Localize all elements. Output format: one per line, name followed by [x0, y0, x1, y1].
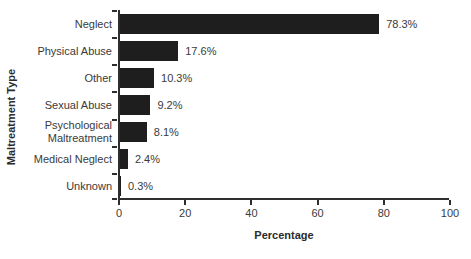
bar	[120, 41, 178, 61]
y-axis-tick	[112, 64, 117, 66]
x-axis-tick-label: 20	[179, 207, 191, 219]
x-axis-tick	[317, 200, 319, 205]
bar	[120, 95, 150, 115]
value-label: 10.3%	[161, 72, 192, 84]
x-axis-tick-label: 0	[116, 207, 122, 219]
y-axis-tick	[112, 198, 117, 200]
value-label: 78.3%	[386, 18, 417, 30]
x-axis-tick-label: 60	[311, 207, 323, 219]
y-axis-tick	[112, 37, 117, 39]
x-axis-tick	[449, 200, 451, 205]
plot-area: 78.3%17.6%10.3%9.2%8.1%2.4%0.3%	[118, 10, 449, 200]
value-label: 8.1%	[154, 126, 179, 138]
category-label: Physical Abuse	[8, 44, 112, 57]
x-axis-tick	[184, 200, 186, 205]
bar	[120, 122, 147, 142]
value-label: 17.6%	[185, 45, 216, 57]
value-label: 2.4%	[135, 153, 160, 165]
x-axis-tick-label: 100	[441, 207, 459, 219]
category-label: Other	[8, 71, 112, 84]
category-label: Unknown	[8, 180, 112, 193]
category-label: Medical Neglect	[8, 153, 112, 166]
y-axis-tick	[112, 119, 117, 121]
value-label: 9.2%	[157, 99, 182, 111]
x-axis-tick	[383, 200, 385, 205]
bar	[120, 14, 379, 34]
x-axis-title: Percentage	[254, 229, 313, 241]
bar	[120, 68, 154, 88]
maltreatment-bar-chart: Maltreatment Type 78.3%17.6%10.3%9.2%8.1…	[0, 0, 471, 259]
category-label: Sexual Abuse	[8, 99, 112, 112]
x-axis-tick	[118, 200, 120, 205]
bar	[120, 149, 128, 169]
y-axis-tick	[112, 173, 117, 175]
category-label: Neglect	[8, 17, 112, 30]
category-label: Psychological Maltreatment	[8, 119, 112, 145]
value-label: 0.3%	[128, 180, 153, 192]
y-axis-tick	[112, 146, 117, 148]
y-axis-tick	[112, 91, 117, 93]
bar	[120, 176, 121, 196]
x-axis-tick	[250, 200, 252, 205]
x-axis-tick-label: 40	[245, 207, 257, 219]
x-axis-tick-label: 80	[378, 207, 390, 219]
y-axis-tick	[112, 10, 117, 12]
